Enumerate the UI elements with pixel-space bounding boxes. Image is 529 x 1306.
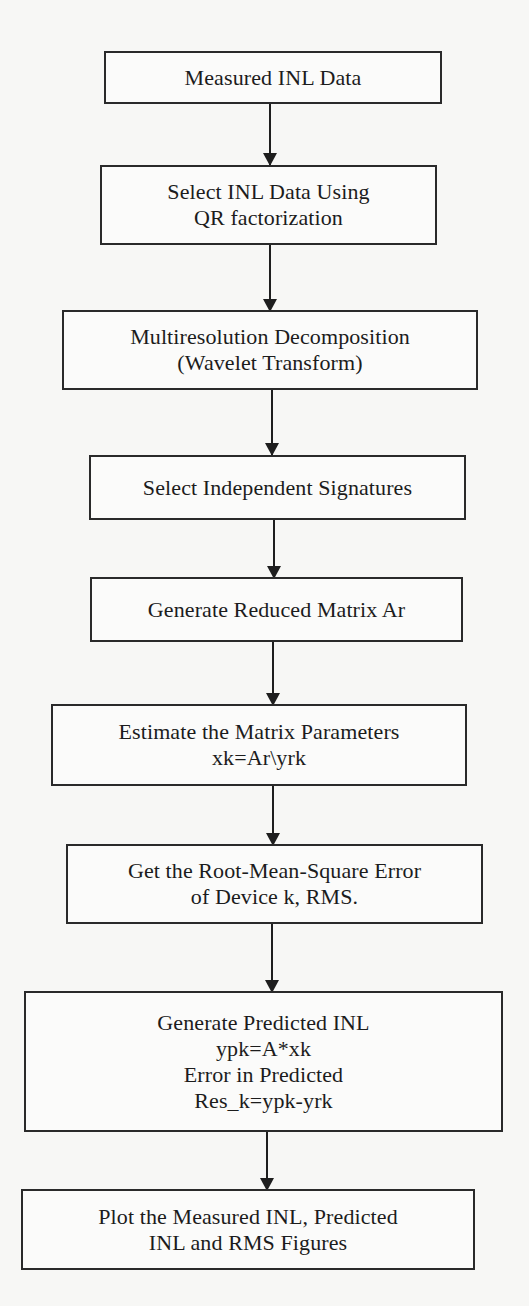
step-plot-figures: Plot the Measured INL, Predicted INL and… [21,1189,475,1270]
arrow-down-icon [269,104,271,165]
step-label: INL and RMS Figures [149,1230,347,1256]
arrow-down-icon [266,1132,268,1190]
arrow-down-icon [269,245,271,311]
step-label: Estimate the Matrix Parameters [119,719,400,745]
step-measured-inl-data: Measured INL Data [104,51,442,104]
step-label: Generate Reduced Matrix Ar [148,597,405,623]
step-label: Get the Root-Mean-Square Error [128,858,421,884]
step-label: Error in Predicted [184,1062,343,1088]
step-select-independent-signatures: Select Independent Signatures [89,455,466,520]
step-label: Select INL Data Using [167,179,369,205]
step-label: of Device k, RMS. [191,884,358,910]
step-label: Generate Predicted INL [157,1010,369,1036]
step-estimate-matrix-parameters: Estimate the Matrix Parameters xk=Ar\yrk [51,704,467,786]
arrow-down-icon [272,642,274,705]
step-label: Res_k=ypk-yrk [194,1088,332,1114]
step-select-inl-data-qr: Select INL Data Using QR factorization [100,165,437,245]
step-generate-predicted-inl: Generate Predicted INL ypk=A*xk Error in… [24,991,503,1132]
step-label: (Wavelet Transform) [177,350,362,376]
step-label: Plot the Measured INL, Predicted [98,1204,398,1230]
arrow-down-icon [272,786,274,845]
arrow-down-icon [273,520,275,578]
step-label: xk=Ar\yrk [212,745,306,771]
step-get-rms-error: Get the Root-Mean-Square Error of Device… [66,844,483,924]
step-label: ypk=A*xk [216,1036,311,1062]
step-multiresolution-decomposition: Multiresolution Decomposition (Wavelet T… [62,310,478,390]
arrow-down-icon [271,390,273,455]
arrow-down-icon [271,924,273,992]
step-label: Measured INL Data [185,65,362,91]
step-label: Multiresolution Decomposition [130,324,410,350]
step-label: QR factorization [194,205,343,231]
flowchart: Measured INL Data Select INL Data Using … [0,0,529,1306]
step-generate-reduced-matrix: Generate Reduced Matrix Ar [90,577,463,642]
step-label: Select Independent Signatures [143,475,412,501]
